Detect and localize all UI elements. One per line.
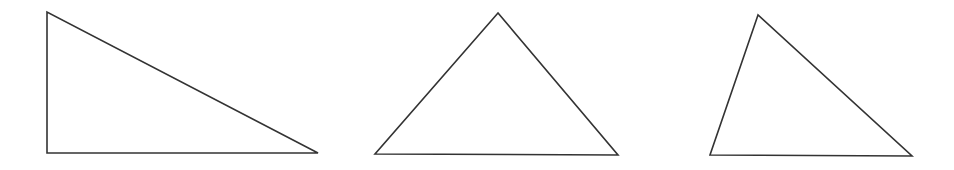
diagram-canvas: [0, 0, 954, 170]
obtuse-triangle: [375, 13, 618, 155]
triangles-figure: [0, 0, 954, 170]
right-triangle: [47, 12, 318, 153]
acute-triangle: [710, 15, 912, 156]
